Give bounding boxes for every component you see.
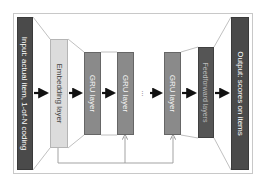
- ellipsis-label: ...: [139, 90, 148, 97]
- gru-layer-2-block: GRU layer: [117, 52, 134, 135]
- skip-connection-lines: [58, 137, 173, 163]
- feedforward-label: Feedforward layers: [203, 63, 210, 123]
- ellipsis: ...: [140, 86, 148, 100]
- output-block: Output: scores on items: [231, 17, 249, 170]
- input-label: Input: actual item, 1-of-N coding: [21, 37, 30, 150]
- gru-3-label: GRU layer: [168, 75, 177, 112]
- output-label: Output: scores on items: [236, 51, 245, 135]
- gru-1-label: GRU layer: [88, 75, 97, 112]
- gru-layer-1-block: GRU layer: [84, 52, 101, 135]
- gru-layer-3-block: GRU layer: [164, 52, 181, 135]
- embedding-layer-block: Embedding layer: [50, 39, 68, 148]
- embedding-label: Embedding layer: [55, 63, 64, 123]
- feedforward-layers-block: Feedforward layers: [198, 47, 214, 138]
- gru-2-label: GRU layer: [121, 75, 130, 112]
- input-block: Input: actual item, 1-of-N coding: [17, 17, 33, 170]
